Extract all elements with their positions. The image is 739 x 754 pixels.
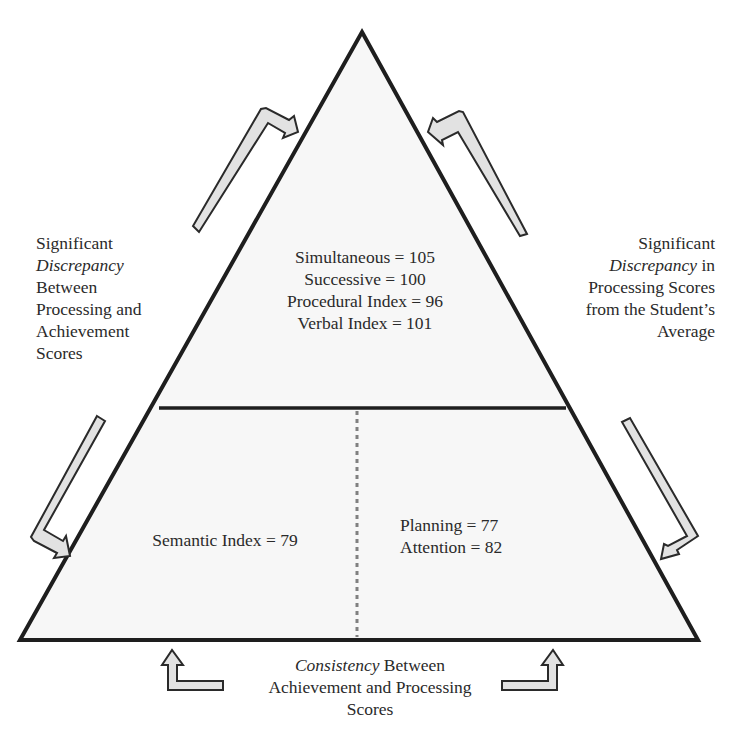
bottom-annotation-line: Scores	[220, 698, 520, 720]
left-annotation-line: Achievement	[36, 320, 196, 342]
right-annotation-line: from the Student’s	[540, 298, 715, 320]
bottom-annotation: Consistency Between Achievement and Proc…	[220, 654, 520, 720]
left-annotation-line: Processing and	[36, 298, 196, 320]
left-annotation-line: Scores	[36, 342, 196, 364]
upper-section-scores: Simultaneous = 105 Successive = 100 Proc…	[240, 246, 490, 334]
pyramid-diagram	[0, 0, 739, 754]
score-procedural-index: Procedural Index = 96	[240, 290, 490, 312]
score-successive: Successive = 100	[240, 268, 490, 290]
right-annotation-line: Significant	[540, 232, 715, 254]
right-annotation-line: Processing Scores	[540, 276, 715, 298]
score-verbal-index: Verbal Index = 101	[240, 312, 490, 334]
score-planning: Planning = 77	[400, 514, 550, 536]
right-annotation-line: Average	[540, 320, 715, 342]
bottom-annotation-line: Between	[379, 655, 445, 675]
left-annotation: Significant Discrepancy Between Processi…	[36, 232, 196, 364]
lower-left-scores: Semantic Index = 79	[110, 529, 340, 551]
right-annotation-emphasis: Discrepancy	[609, 255, 697, 275]
right-annotation: Significant Discrepancy in Processing Sc…	[540, 232, 715, 342]
score-semantic-index: Semantic Index = 79	[110, 529, 340, 551]
score-attention: Attention = 82	[400, 536, 550, 558]
arrow-bottom-left-up-icon	[162, 650, 223, 690]
score-simultaneous: Simultaneous = 105	[240, 246, 490, 268]
left-annotation-line: Significant	[36, 232, 196, 254]
left-annotation-emphasis: Discrepancy	[36, 255, 124, 275]
right-annotation-line: in	[697, 255, 715, 275]
left-annotation-line: Between	[36, 276, 196, 298]
bottom-annotation-emphasis: Consistency	[295, 655, 380, 675]
bottom-annotation-line: Achievement and Processing	[220, 676, 520, 698]
lower-right-scores: Planning = 77 Attention = 82	[400, 514, 550, 558]
